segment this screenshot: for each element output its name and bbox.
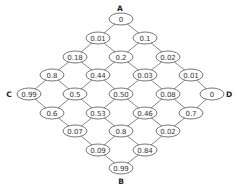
node-value: 0.7 — [185, 110, 196, 118]
label-c: C — [6, 90, 12, 99]
node-r5c2: 0.5 — [63, 88, 87, 100]
node-r8c2: 0.84 — [133, 144, 157, 156]
node-value: 0.02 — [160, 128, 176, 136]
nodes-layer: 00.010.10.180.20.020.80.440.030.010.990.… — [17, 13, 224, 174]
node-r3c2: 0.2 — [109, 51, 133, 63]
label-b: B — [118, 177, 124, 186]
node-value: 0.84 — [137, 147, 153, 155]
node-r4c4: 0.01 — [179, 69, 203, 81]
node-value: 0.46 — [137, 110, 153, 118]
node-r2c1: 0.01 — [86, 32, 110, 44]
lattice-diagram: 00.010.10.180.20.020.80.440.030.010.990.… — [0, 0, 237, 190]
node-value: 0.2 — [115, 54, 126, 62]
node-r4c2: 0.44 — [86, 69, 110, 81]
node-value: 0.01 — [90, 35, 106, 43]
node-r6c2: 0.53 — [86, 107, 110, 119]
node-value: 0.01 — [183, 72, 199, 80]
node-value: 0 — [210, 91, 214, 99]
node-value: 0.99 — [113, 165, 129, 173]
label-a: A — [117, 4, 123, 13]
node-value: 0.07 — [67, 128, 83, 136]
node-r4c1: 0.8 — [40, 69, 64, 81]
node-value: 0.08 — [160, 91, 176, 99]
node-r7c2: 0.8 — [109, 125, 133, 137]
node-value: 0.50 — [113, 91, 129, 99]
node-value: 0.99 — [21, 91, 37, 99]
node-value: 0.6 — [46, 110, 58, 118]
node-value: 0.44 — [90, 72, 106, 80]
node-r5c1: 0.99 — [17, 88, 41, 100]
node-r7c1: 0.07 — [63, 125, 87, 137]
node-r5c4: 0.08 — [156, 88, 180, 100]
node-r3c3: 0.02 — [156, 51, 180, 63]
node-value: 0.03 — [137, 72, 153, 80]
node-r5c5: 0 — [200, 88, 224, 100]
node-r3c1: 0.18 — [63, 51, 87, 63]
node-r6c3: 0.46 — [133, 107, 157, 119]
node-r4c3: 0.03 — [133, 69, 157, 81]
node-r6c1: 0.6 — [40, 107, 64, 119]
node-value: 0.8 — [115, 128, 126, 136]
node-r7c3: 0.02 — [156, 125, 180, 137]
node-r1c1: 0 — [109, 13, 133, 25]
node-r8c1: 0.09 — [86, 144, 110, 156]
node-value: 0.18 — [67, 54, 83, 62]
node-value: 0.5 — [69, 91, 80, 99]
node-value: 0.8 — [46, 72, 57, 80]
node-value: 0.09 — [90, 147, 106, 155]
node-value: 0.1 — [139, 35, 150, 43]
node-r9c1: 0.99 — [109, 162, 133, 174]
node-r6c4: 0.7 — [179, 107, 203, 119]
label-d: D — [226, 90, 232, 99]
node-r2c2: 0.1 — [133, 32, 157, 44]
node-value: 0.02 — [160, 54, 176, 62]
node-value: 0 — [119, 16, 123, 24]
node-value: 0.53 — [90, 110, 106, 118]
node-r5c3: 0.50 — [109, 88, 133, 100]
